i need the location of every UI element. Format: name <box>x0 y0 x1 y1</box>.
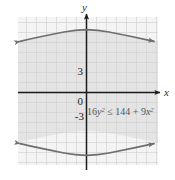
y-axis-label: y <box>81 1 87 13</box>
coordinate-plane: 3 0 -3 x y 16y2 ≤ 144 + 9x2 <box>0 0 175 180</box>
graph-figure: 3 0 -3 x y 16y2 ≤ 144 + 9x2 <box>0 0 175 180</box>
origin-label: 0 <box>78 95 84 107</box>
solution-region-shading <box>18 30 158 142</box>
x-axis-label: x <box>163 86 169 98</box>
y-tick-label-3: 3 <box>78 65 84 77</box>
inequality-expression: 16y2 ≤ 144 + 9x2 <box>87 106 154 117</box>
inequality-constant: 144 <box>113 106 131 117</box>
inequality-coef1: 16 <box>87 106 97 117</box>
y-tick-label-neg3: -3 <box>75 110 85 122</box>
inequality-coef2: 9 <box>138 106 146 117</box>
